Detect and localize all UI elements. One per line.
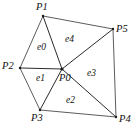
mesh-edge-p0-p2 <box>20 68 62 69</box>
mesh-figure: P0P1P2P3P4P5e0e1e2e3e4 <box>0 0 138 131</box>
vertex-label-p3: P3 <box>31 113 43 124</box>
element-label-e1: e1 <box>36 74 45 84</box>
vertex-dot-p3 <box>39 109 41 111</box>
mesh-edge-p5-p1 <box>43 16 113 29</box>
mesh-canvas <box>0 0 138 131</box>
vertex-dot-p5 <box>112 28 114 30</box>
vertex-label-p4: P4 <box>119 114 131 125</box>
element-label-e2: e2 <box>66 96 75 106</box>
vertex-label-p5: P5 <box>116 24 128 35</box>
vertex-label-p2: P2 <box>2 61 14 72</box>
vertex-label-p1: P1 <box>36 2 48 13</box>
element-label-e0: e0 <box>37 43 46 53</box>
vertex-dot-p4 <box>115 116 117 118</box>
element-label-e4: e4 <box>65 35 74 45</box>
mesh-edge-p4-p5 <box>113 29 116 117</box>
vertex-dot-p1 <box>42 15 44 17</box>
vertex-dot-p0 <box>60 67 63 70</box>
mesh-edge-p3-p4 <box>40 110 116 117</box>
vertex-label-p0: P0 <box>59 73 71 84</box>
element-label-e3: e3 <box>87 69 96 79</box>
vertex-dot-p2 <box>19 67 21 69</box>
